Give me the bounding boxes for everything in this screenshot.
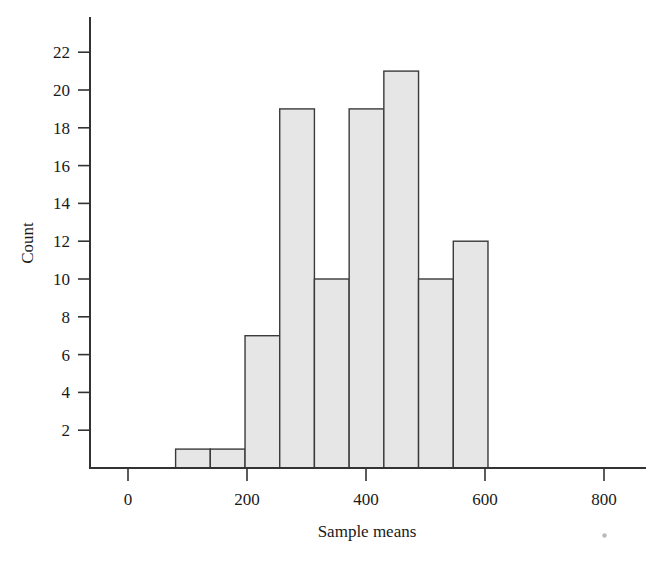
y-axis-tick-label: 16 bbox=[53, 157, 70, 176]
histogram-bar bbox=[176, 449, 211, 468]
histogram-bar bbox=[280, 109, 315, 468]
histogram-bar bbox=[349, 109, 384, 468]
y-axis-tick-label: 14 bbox=[53, 194, 71, 213]
x-axis-tick-label: 200 bbox=[234, 490, 260, 509]
y-axis-tick-label: 6 bbox=[62, 346, 71, 365]
x-axis-ticks bbox=[128, 468, 604, 481]
y-axis-tick-label: 18 bbox=[53, 119, 70, 138]
y-axis-tick-label: 20 bbox=[53, 81, 70, 100]
histogram-bar bbox=[453, 241, 488, 468]
y-axis-tick-label: 10 bbox=[53, 270, 70, 289]
x-axis-tick-label: 400 bbox=[353, 490, 379, 509]
y-axis-tick-labels: 246810121416182022 bbox=[53, 43, 71, 440]
histogram-bar bbox=[245, 336, 280, 468]
x-axis-tick-label: 0 bbox=[124, 490, 133, 509]
y-axis-tick-label: 8 bbox=[62, 308, 71, 327]
histogram-bar bbox=[210, 449, 245, 468]
y-axis-title: Count bbox=[18, 222, 37, 264]
scan-speck-icon bbox=[602, 533, 606, 537]
histogram-bar bbox=[419, 279, 454, 468]
x-axis-tick-label: 600 bbox=[472, 490, 498, 509]
histogram-svg: 246810121416182022 0200400600800 Count S… bbox=[0, 0, 653, 562]
x-axis-tick-label: 800 bbox=[591, 490, 617, 509]
histogram-bar bbox=[384, 71, 419, 468]
y-axis-tick-label: 22 bbox=[53, 43, 70, 62]
bars-group bbox=[176, 71, 488, 468]
y-axis-tick-label: 2 bbox=[62, 421, 71, 440]
histogram-figure: 246810121416182022 0200400600800 Count S… bbox=[0, 0, 653, 562]
y-axis-tick-label: 4 bbox=[62, 383, 71, 402]
y-axis-tick-label: 12 bbox=[53, 232, 70, 251]
x-axis-tick-labels: 0200400600800 bbox=[124, 490, 617, 509]
y-axis-ticks bbox=[78, 52, 90, 430]
x-axis-title: Sample means bbox=[318, 522, 417, 541]
histogram-bar bbox=[314, 279, 349, 468]
